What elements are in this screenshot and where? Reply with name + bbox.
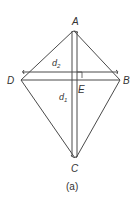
side-ab xyxy=(74,31,120,80)
side-cd xyxy=(21,80,75,158)
diagonal-d2 xyxy=(21,70,120,80)
diagonal-d1 xyxy=(71,31,78,158)
right-angle-marker xyxy=(77,72,82,78)
figure-caption: (a) xyxy=(66,181,78,192)
side-da xyxy=(21,31,73,80)
vertex-label-b: B xyxy=(123,75,130,86)
vertex-label-c: C xyxy=(71,163,79,174)
kite-outline xyxy=(21,31,120,158)
diagonal-label-d2: d2 xyxy=(52,58,61,69)
vertex-label-a: A xyxy=(71,16,79,27)
vertex-label-d: D xyxy=(7,75,14,86)
intersection-label-e: E xyxy=(78,84,85,95)
diagonal-label-d1: d1 xyxy=(59,92,67,103)
kite-diagram: A B C D E d2 d1 (a) xyxy=(0,0,140,205)
